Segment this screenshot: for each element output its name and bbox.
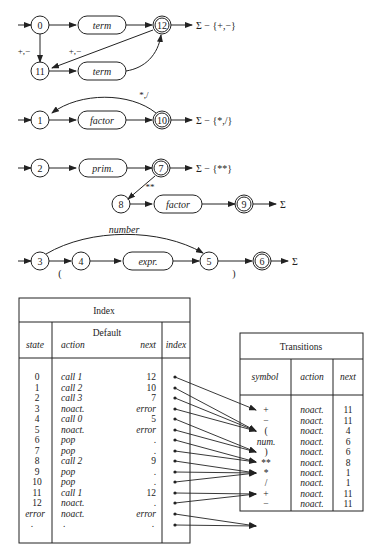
table-row: 3noact.error — [35, 404, 157, 414]
table-row: 12noact.. — [32, 498, 156, 508]
svg-text:11: 11 — [32, 488, 41, 498]
svg-text:call 2: call 2 — [61, 383, 83, 393]
svg-text:−: − — [263, 416, 268, 426]
label-lparen: ( — [58, 268, 62, 280]
svg-text:call 1: call 1 — [61, 372, 82, 382]
svg-text:.: . — [31, 519, 33, 529]
svg-text:.: . — [63, 519, 65, 529]
svg-text:8: 8 — [346, 458, 351, 468]
svg-text:2: 2 — [35, 393, 40, 403]
svg-text:7: 7 — [35, 446, 40, 456]
table-row: 4call 05 — [35, 414, 157, 424]
label-number: number — [109, 224, 140, 235]
svg-text:error: error — [136, 509, 156, 519]
index-table-rows: 0call 112 1call 210 2call 37 3noact.erro… — [25, 372, 156, 529]
svg-text:3: 3 — [35, 404, 40, 414]
table-row: )noact.6 — [264, 447, 350, 458]
table-row: 7pop. — [35, 446, 156, 456]
svg-text:error: error — [136, 425, 156, 435]
col-next-header: next — [140, 340, 156, 350]
box-term-label: term — [93, 20, 111, 31]
box-factor-label: factor — [90, 115, 114, 126]
svg-text:call 0: call 0 — [61, 414, 83, 424]
state-3-label: 3 — [38, 256, 43, 267]
svg-text:1: 1 — [346, 468, 351, 478]
svg-text:noact.: noact. — [300, 478, 323, 488]
svg-text:noact.: noact. — [300, 458, 323, 468]
table-row: num.noact.6 — [257, 437, 351, 447]
table-row: +noact.11 — [263, 405, 352, 415]
svg-text:8: 8 — [35, 456, 40, 466]
svg-text:7: 7 — [151, 393, 156, 403]
col-state-header: state — [26, 340, 44, 350]
box-expr-label: expr. — [138, 256, 157, 267]
state-10-label: 10 — [157, 115, 167, 126]
parser-diagram: 0 term 12 11 term +,− +,− Σ − {+,−} 1 fa… — [0, 0, 379, 555]
col-next-header-2: next — [340, 372, 356, 382]
svg-text:11: 11 — [343, 499, 352, 509]
svg-text:.: . — [152, 519, 154, 529]
svg-text:): ) — [264, 447, 267, 458]
state-12-label: 12 — [157, 20, 167, 31]
svg-text:9: 9 — [151, 456, 156, 466]
svg-text:.: . — [154, 446, 156, 456]
table-row: 8call 29 — [35, 456, 157, 466]
svg-text:5: 5 — [151, 414, 156, 424]
svg-text:noact.: noact. — [61, 425, 84, 435]
label-plus-minus-down: +,− — [18, 46, 30, 56]
col-action-header-2: action — [300, 372, 324, 382]
svg-text:noact.: noact. — [300, 489, 323, 499]
svg-text:11: 11 — [343, 416, 352, 426]
state-7-label: 7 — [159, 163, 164, 174]
svg-text:noact.: noact. — [300, 499, 323, 509]
exit-label-factor-9: Σ — [280, 199, 286, 210]
index-pointer-dots — [173, 375, 176, 526]
table-row: 1call 210 — [35, 383, 157, 393]
svg-text:10: 10 — [32, 477, 42, 487]
table-row: errornoact.error — [25, 509, 156, 519]
svg-text:call 2: call 2 — [61, 456, 83, 466]
svg-text:5: 5 — [35, 425, 40, 435]
exit-label-prim: Σ — [292, 256, 298, 267]
svg-text:**: ** — [261, 458, 271, 468]
table-row: /noact.1 — [265, 478, 351, 488]
svg-text:noact.: noact. — [300, 437, 323, 447]
exit-label-term: Σ − {*,/} — [196, 115, 232, 126]
svg-text:(: ( — [264, 426, 267, 437]
svg-text:11: 11 — [343, 489, 352, 499]
svg-text:+: + — [263, 405, 268, 415]
label-rparen: ) — [232, 268, 235, 280]
svg-text:6: 6 — [346, 437, 351, 447]
index-pointer-arrows — [175, 377, 256, 526]
svg-text:call 1: call 1 — [61, 488, 82, 498]
svg-text:noact.: noact. — [61, 498, 84, 508]
svg-text:.: . — [154, 498, 156, 508]
table-row: ... — [31, 519, 154, 529]
svg-text:pop: pop — [60, 446, 76, 456]
table-row: 0call 112 — [35, 372, 157, 382]
index-default-header: Default — [93, 328, 122, 338]
svg-text:error: error — [25, 509, 45, 519]
svg-text:noact.: noact. — [61, 509, 84, 519]
table-row: −noact.11 — [263, 416, 352, 426]
table-row: −noact.11 — [263, 499, 352, 509]
svg-text:12: 12 — [147, 372, 157, 382]
svg-text:num.: num. — [257, 437, 276, 447]
svg-text:4: 4 — [35, 414, 40, 424]
box-prim-label: prim. — [91, 163, 113, 174]
svg-text:12: 12 — [147, 488, 157, 498]
label-power: ** — [146, 182, 156, 192]
label-plus-minus-back: +,− — [69, 46, 81, 56]
state-9-label: 9 — [242, 199, 247, 210]
svg-text:pop: pop — [60, 477, 76, 487]
svg-text:noact.: noact. — [300, 447, 323, 457]
state-8-label: 8 — [119, 199, 124, 210]
state-0-label: 0 — [38, 20, 43, 31]
exit-label-factor: Σ − {**} — [196, 163, 232, 174]
svg-text:noact.: noact. — [300, 416, 323, 426]
transitions-table-title: Transitions — [280, 342, 323, 352]
table-row: 9pop. — [35, 467, 156, 477]
state-6-label: 6 — [260, 256, 265, 267]
state-11-label: 11 — [35, 66, 45, 77]
svg-text:.: . — [154, 435, 156, 445]
